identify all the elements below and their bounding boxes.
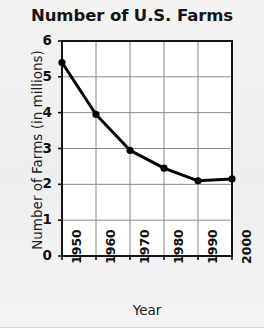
data-point (160, 165, 167, 172)
y-tick-label: 0 (28, 247, 52, 263)
x-axis-title: Year (62, 302, 232, 318)
data-point (194, 177, 201, 184)
x-tick-label: 1950 (69, 229, 84, 264)
chart-figure: Number of U.S. Farms Number of Farms (in… (0, 0, 264, 328)
x-tick-label: 2000 (239, 229, 254, 264)
y-tick-label: 3 (28, 140, 52, 156)
data-point (228, 175, 235, 182)
data-point (92, 111, 99, 118)
x-tick-label: 1990 (205, 229, 220, 264)
y-tick-label: 2 (28, 175, 52, 191)
y-tick-label: 5 (28, 68, 52, 84)
data-point (126, 147, 133, 154)
y-tick-label: 4 (28, 104, 52, 120)
y-tick-label: 1 (28, 211, 52, 227)
data-point (58, 59, 65, 66)
y-tick-label: 6 (28, 32, 52, 48)
x-tick-label: 1960 (103, 229, 118, 264)
plot-area (0, 0, 264, 328)
x-tick-label: 1970 (137, 229, 152, 264)
x-tick-label: 1980 (171, 229, 186, 264)
